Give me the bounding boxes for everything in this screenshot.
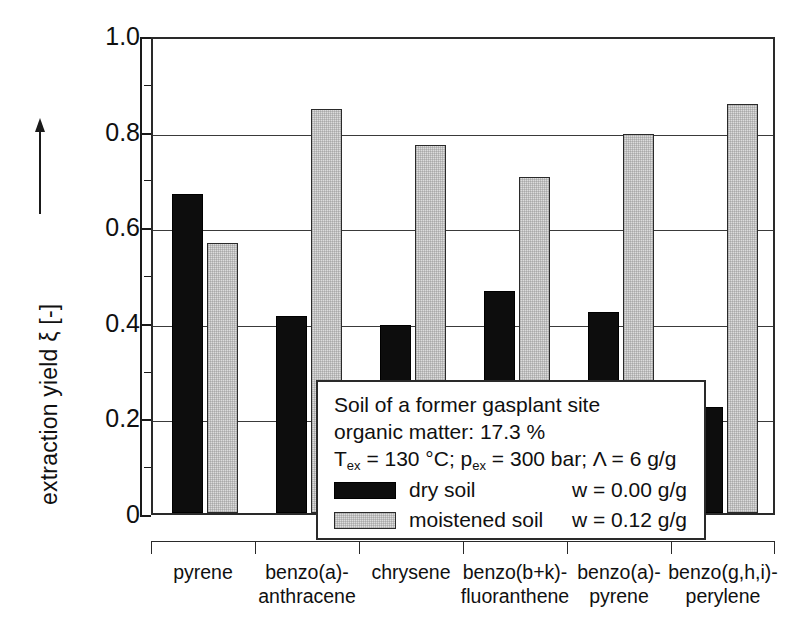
y-tick-label: 1.0	[82, 24, 140, 49]
category-label: benzo(b+k)-fluoranthene	[457, 560, 573, 608]
category-label-line: chrysene	[353, 560, 469, 584]
plot-area: Soil of a former gasplant site organic m…	[151, 37, 775, 515]
category-label-line: benzo(g,h,i)-	[665, 560, 781, 584]
legend-suffix: = 300 bar; Λ = 6 g/g	[486, 447, 676, 470]
category-axis-bracket	[151, 541, 775, 555]
legend-t-prefix: T	[334, 447, 347, 470]
y-tick-label: 0.8	[82, 120, 140, 145]
category-axis-tick	[255, 541, 256, 554]
y-tickmark-major	[140, 419, 151, 421]
bar-dry	[276, 316, 307, 513]
y-axis-tick-labels: 00.20.40.60.81.0	[82, 0, 140, 560]
y-tickmark-minor	[144, 372, 151, 373]
moistened-soil-swatch-icon	[334, 512, 396, 529]
category-axis-labels: pyrenebenzo(a)-anthracenechrysenebenzo(b…	[151, 560, 775, 622]
category-label-line: benzo(b+k)-	[457, 560, 573, 584]
y-tickmark-major	[140, 515, 151, 517]
category-label: chrysene	[353, 560, 469, 584]
category-label: benzo(a)-pyrene	[561, 560, 677, 608]
legend-moistened-soil-value: w = 0.12 g/g	[572, 508, 687, 532]
y-tickmark-minor	[144, 180, 151, 181]
y-tick-label: 0.2	[82, 406, 140, 431]
bar-dry	[172, 194, 203, 513]
dry-soil-swatch-icon	[334, 482, 396, 499]
category-label-line: pyrene	[561, 584, 677, 608]
bar-moist	[727, 104, 758, 513]
legend-box: Soil of a former gasplant site organic m…	[316, 380, 706, 540]
legend-moistened-soil-label: moistened soil	[409, 508, 543, 532]
category-label: benzo(a)-anthracene	[249, 560, 365, 608]
legend-mid: = 130 °C; p	[361, 447, 473, 470]
category-label-line: benzo(a)-	[249, 560, 365, 584]
y-axis-title-group: extraction yield ξ [-]	[0, 0, 56, 560]
category-axis-tick	[567, 541, 568, 554]
category-axis-tick	[359, 541, 360, 554]
y-tickmark-minor	[144, 85, 151, 86]
y-tick-label: 0.4	[82, 311, 140, 336]
legend-row-moistened-soil: moistened soil w = 0.12 g/g	[334, 505, 704, 535]
category-label-line: pyrene	[145, 560, 261, 584]
legend-line-soil: Soil of a former gasplant site	[334, 391, 704, 418]
y-tickmark-minor	[144, 467, 151, 468]
y-axis-spine	[140, 37, 142, 515]
category-label-line: fluoranthene	[457, 584, 573, 608]
category-label: benzo(g,h,i)-perylene	[665, 560, 781, 608]
category-axis-tick	[151, 541, 152, 554]
bar-moist	[207, 243, 238, 513]
legend-dry-soil-label: dry soil	[409, 478, 476, 502]
up-arrow-icon	[33, 118, 47, 214]
category-label-line: benzo(a)-	[561, 560, 677, 584]
y-tickmark-minor	[144, 276, 151, 277]
y-tickmark-major	[140, 37, 151, 39]
legend-line-organic-matter: organic matter: 17.3 %	[334, 418, 704, 445]
legend-line-conditions: Tex = 130 °C; pex = 300 bar; Λ = 6 g/g	[334, 445, 704, 475]
category-label-line: anthracene	[249, 584, 365, 608]
y-tick-label: 0	[82, 502, 140, 527]
category-axis-tick	[463, 541, 464, 554]
y-tickmark-major	[140, 133, 151, 135]
y-tickmark-major	[140, 324, 151, 326]
y-tickmark-major	[140, 228, 151, 230]
category-label-line: perylene	[665, 584, 781, 608]
legend-p-sub: ex	[472, 458, 486, 473]
y-tick-label: 0.6	[82, 215, 140, 240]
legend-dry-soil-value: w = 0.00 g/g	[572, 478, 687, 502]
y-axis-title: extraction yield ξ [-]	[36, 304, 63, 505]
category-axis-tick	[774, 541, 775, 554]
category-label: pyrene	[145, 560, 261, 584]
legend-row-dry-soil: dry soil w = 0.00 g/g	[334, 475, 704, 505]
category-axis-tick	[671, 541, 672, 554]
legend-t-sub: ex	[347, 458, 361, 473]
